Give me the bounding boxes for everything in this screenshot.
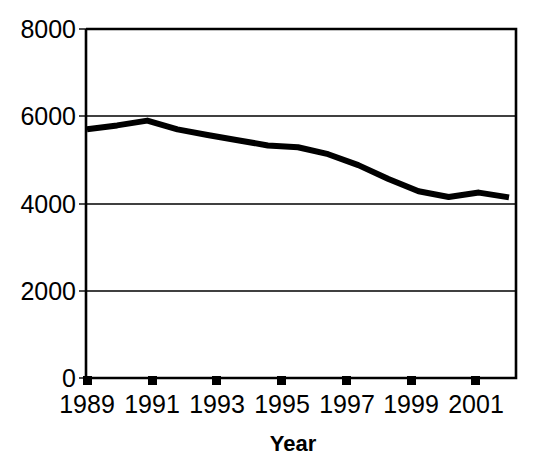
xtick-label-1995: 1995	[254, 390, 310, 418]
xtick-1991	[148, 376, 157, 385]
chart-canvas: 8000 6000 4000 2000 0 1989 1991 1993 199…	[0, 0, 545, 469]
ytick-label-0: 0	[62, 364, 76, 392]
x-axis-title: Year	[270, 431, 317, 456]
xtick-label-1989: 1989	[59, 390, 115, 418]
xtick-label-2001: 2001	[448, 390, 504, 418]
line-chart: 8000 6000 4000 2000 0 1989 1991 1993 199…	[0, 0, 545, 469]
ytick-label-4000: 4000	[20, 190, 76, 218]
ytick-label-2000: 2000	[20, 277, 76, 305]
xtick-label-1999: 1999	[383, 390, 439, 418]
xtick-1997	[342, 376, 351, 385]
xtick-label-1991: 1991	[124, 390, 180, 418]
xtick-label-1993: 1993	[189, 390, 245, 418]
xtick-1993	[212, 376, 221, 385]
ytick-label-8000: 8000	[20, 15, 76, 43]
xtick-1995	[277, 376, 286, 385]
x-axis-labels: 1989 1991 1993 1995 1997 1999 2001	[59, 390, 504, 418]
xtick-2001	[471, 376, 480, 385]
xtick-1999	[407, 376, 416, 385]
ytick-label-6000: 6000	[20, 102, 76, 130]
xtick-1989	[83, 376, 92, 385]
xtick-label-1997: 1997	[319, 390, 375, 418]
